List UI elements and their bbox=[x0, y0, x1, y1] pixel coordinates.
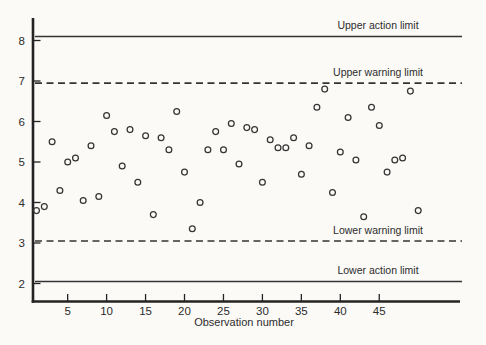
lower-action-limit-label: Lower action limit bbox=[337, 264, 418, 276]
x-tick-label: 40 bbox=[334, 305, 347, 317]
y-tick-label: 3 bbox=[19, 237, 25, 249]
y-tick-label: 8 bbox=[19, 35, 25, 47]
control-chart-figure: Upper action limitUpper warning limitLow… bbox=[0, 0, 486, 345]
y-tick-label: 6 bbox=[19, 116, 25, 128]
lower-warning-limit-label: Lower warning limit bbox=[333, 224, 423, 236]
x-tick-label: 35 bbox=[295, 305, 308, 317]
upper-warning-limit-label: Upper warning limit bbox=[333, 66, 423, 78]
x-tick-label: 20 bbox=[178, 305, 191, 317]
control-chart: Upper action limitUpper warning limitLow… bbox=[0, 0, 486, 345]
x-axis-title: Observation number bbox=[194, 316, 294, 328]
x-tick-label: 30 bbox=[256, 305, 269, 317]
y-tick-label: 2 bbox=[19, 278, 25, 290]
upper-action-limit-label: Upper action limit bbox=[337, 19, 418, 31]
y-tick-label: 4 bbox=[19, 197, 26, 209]
x-tick-label: 45 bbox=[373, 305, 386, 317]
y-tick-label: 7 bbox=[19, 75, 25, 87]
x-tick-label: 15 bbox=[139, 305, 152, 317]
chart-background bbox=[0, 0, 486, 345]
x-tick-label: 25 bbox=[217, 305, 230, 317]
x-tick-label: 10 bbox=[100, 305, 113, 317]
x-tick-label: 5 bbox=[64, 305, 70, 317]
y-tick-label: 5 bbox=[19, 156, 25, 168]
figure-page: Upper action limitUpper warning limitLow… bbox=[0, 0, 486, 345]
